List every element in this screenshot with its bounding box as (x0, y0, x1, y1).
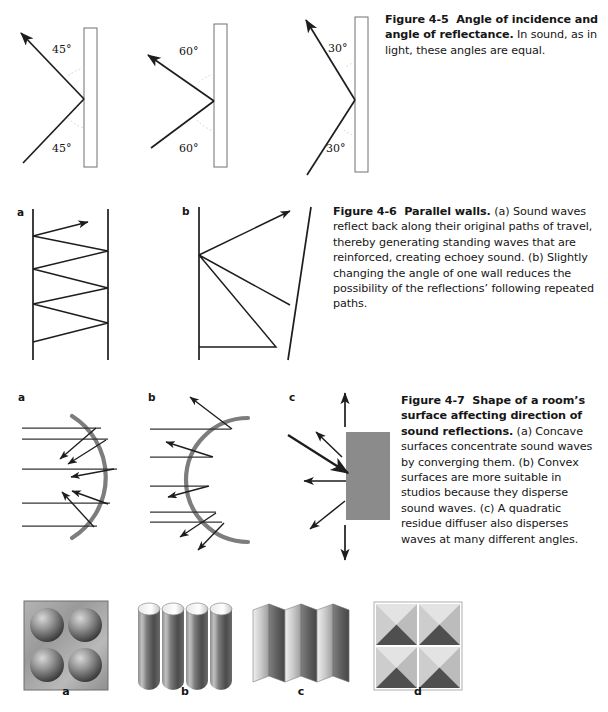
pyramid-panel (374, 602, 462, 690)
pyramid-tile (419, 647, 460, 688)
figure-4-5-svg: 45° 45° 60° 60° 30° 30° (0, 0, 380, 195)
figure-4-7-caption: Figure 4-7 Shape of a room’s surface aff… (401, 393, 601, 547)
hemisphere-panel (24, 601, 108, 690)
diffuser-profile (346, 432, 390, 520)
figure-4-7-illustration: a b c (0, 385, 395, 585)
wave-exit-arrow (33, 222, 88, 236)
figure-4-7-number: Figure 4-7 (401, 394, 465, 407)
angle-label-bottom: 60° (179, 142, 199, 155)
figure-4-5-number: Figure 4-5 (385, 13, 449, 26)
convex-surface-panel (150, 397, 248, 550)
standing-wave-path (33, 236, 108, 342)
angle-arc-bottom (344, 130, 355, 136)
figure-4-7-body: (a) Concave surfaces concentrate sound w… (401, 425, 592, 546)
scattered-arrow-upleft (316, 432, 342, 457)
wall-surface (355, 17, 368, 172)
parallel-walls-panel-a (33, 209, 108, 360)
hemisphere (68, 608, 102, 642)
figure-4-6-svg (0, 195, 330, 385)
prism (317, 604, 349, 682)
half-cylinder (162, 603, 184, 690)
angle-label-bottom: 30° (326, 142, 346, 155)
convex-surface (186, 418, 248, 542)
wall-surface (214, 24, 227, 167)
reflected-arrow (60, 428, 96, 459)
angle-arc-top (68, 68, 84, 76)
reflection-panel-60: 60° 60° (148, 24, 227, 167)
hemisphere (68, 648, 102, 682)
reflected-ray (148, 55, 214, 101)
angle-label-top: 30° (328, 42, 348, 55)
panel-label-a: a (17, 206, 24, 218)
panel-label-b: b (148, 391, 156, 403)
panel-label-b: b (182, 205, 190, 217)
figure-4-5-illustration: 45° 45° 60° 60° 30° 30° (0, 0, 380, 195)
bottom-panel-label-c: c (281, 685, 321, 698)
reflected-arrow (190, 397, 232, 429)
angle-arc-top (346, 62, 355, 67)
pyramid-tile (419, 604, 460, 645)
half-cylinder (210, 603, 232, 690)
bottom-panel-label-a: a (46, 685, 86, 698)
incident-ray (307, 100, 355, 175)
panel-label-c: c (289, 391, 295, 403)
pyramid-tile (376, 604, 417, 645)
angled-walls-panel-b (199, 207, 311, 360)
angle-arc-bottom (197, 120, 214, 131)
angle-label-bottom: 45° (52, 142, 72, 155)
concave-surface-panel (22, 416, 117, 538)
scattered-arrow-downleft (310, 501, 345, 529)
hemisphere (30, 608, 64, 642)
figure-4-6-caption: Figure 4-6 Parallel walls. (a) Sound wav… (333, 204, 601, 312)
wave-exit-arrow (199, 211, 290, 255)
reflection-path (199, 255, 290, 347)
figure-4-6-title: Parallel walls. (404, 205, 490, 218)
figure-4-6-illustration: a b (0, 195, 330, 385)
angle-arc-top (199, 74, 214, 82)
vertical-prism-panel (253, 604, 349, 682)
prism (285, 604, 317, 682)
bottom-panel-label-b: b (165, 685, 205, 698)
angle-arc-bottom (68, 118, 84, 128)
figure-4-7-svg (0, 385, 395, 585)
wall-surface (84, 28, 97, 167)
figure-4-6-number: Figure 4-6 (333, 205, 397, 218)
half-cylinder-panel (138, 603, 232, 690)
diffuser-photo-row: a b c d (0, 592, 608, 712)
reflected-ray (306, 20, 355, 100)
reflection-panel-45: 45° 45° (21, 28, 97, 167)
quadratic-residue-diffuser-panel (288, 393, 390, 560)
angled-right-wall (288, 207, 311, 360)
figure-4-6-body: (a) Sound waves reflect back along their… (333, 205, 594, 310)
prism (253, 604, 285, 682)
half-cylinder (186, 603, 208, 690)
panel-label-a: a (18, 391, 25, 403)
incident-ray (151, 101, 214, 148)
textbook-page: 45° 45° 60° 60° 30° 30° (0, 0, 608, 712)
angle-label-top: 45° (52, 43, 72, 56)
angle-label-top: 60° (179, 45, 199, 58)
figure-4-5-caption: Figure 4-5 Angle of incidence and angle … (385, 12, 603, 58)
reflection-panel-30: 30° 30° (306, 17, 368, 175)
bottom-panel-label-d: d (398, 685, 438, 698)
hemisphere (30, 648, 64, 682)
half-cylinder (138, 603, 160, 690)
pyramid-tile (376, 647, 417, 688)
